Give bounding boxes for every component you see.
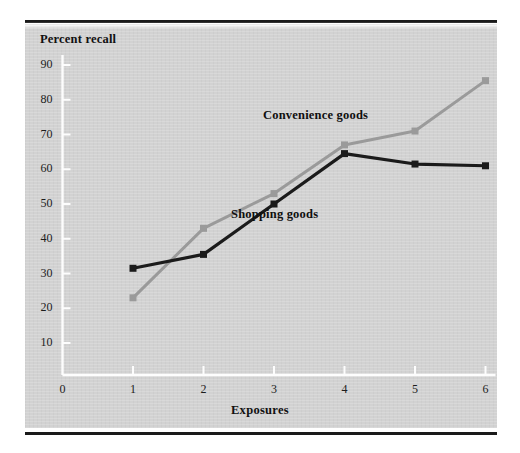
y-tick-label: 20 (27, 300, 53, 315)
data-point-marker (130, 294, 137, 301)
x-tick-label: 3 (264, 382, 284, 397)
data-point-marker (482, 77, 489, 84)
y-tick-label: 40 (27, 231, 53, 246)
series-label-shopping-goods: Shopping goods (231, 207, 318, 222)
x-tick-label: 1 (123, 382, 143, 397)
data-point-marker (130, 265, 137, 272)
data-point-marker (482, 162, 489, 169)
data-point-marker (341, 150, 348, 157)
x-axis-title: Exposures (0, 403, 520, 418)
data-point-marker (200, 225, 207, 232)
data-point-marker (412, 161, 419, 168)
data-point-marker (271, 190, 278, 197)
y-tick-label: 60 (27, 161, 53, 176)
y-tick-label: 80 (27, 92, 53, 107)
x-tick-label: 2 (194, 382, 214, 397)
x-tick-label: 6 (476, 382, 496, 397)
chart-plot-area (0, 0, 520, 453)
x-tick-label: 4 (335, 382, 355, 397)
data-point-marker (412, 128, 419, 135)
data-point-marker (341, 141, 348, 148)
y-tick-label: 70 (27, 127, 53, 142)
data-point-marker (200, 251, 207, 258)
figure-container: Percent recall 102030405060708090 012345… (0, 0, 520, 453)
x-tick-label: 0 (53, 382, 73, 397)
y-tick-label: 30 (27, 266, 53, 281)
y-tick-label: 50 (27, 196, 53, 211)
y-tick-label: 90 (27, 57, 53, 72)
x-tick-label: 5 (405, 382, 425, 397)
series-label-convenience-goods: Convenience goods (263, 108, 368, 123)
y-tick-label: 10 (27, 335, 53, 350)
y-axis-title: Percent recall (40, 32, 116, 47)
